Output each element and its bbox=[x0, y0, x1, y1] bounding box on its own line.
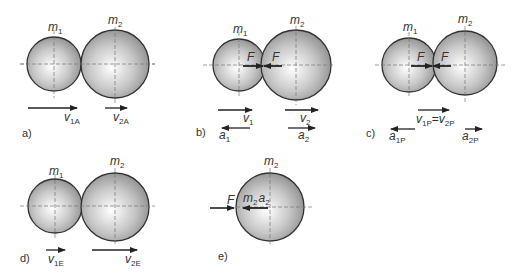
panel-label-c: c) bbox=[366, 127, 375, 139]
collision-diagram: m1 m2 v1A v2A a) m1 m2 F F v1 v2 a1 a2 b… bbox=[0, 0, 515, 278]
mass-label-m2: m2 bbox=[290, 13, 305, 29]
panel-b: m1 m2 F F v1 v2 a1 a2 b) bbox=[196, 13, 335, 144]
force-label-2: F bbox=[272, 50, 280, 64]
mass-label-m1: m1 bbox=[403, 20, 418, 36]
force-label: F bbox=[227, 193, 235, 207]
mass-label-m2: m2 bbox=[264, 154, 279, 170]
acceleration-label-a1p: a1P bbox=[389, 129, 405, 145]
velocity-label-v1e: v1E bbox=[48, 252, 64, 268]
mass-label-m1: m1 bbox=[233, 22, 248, 38]
acceleration-label-a1: a1 bbox=[219, 128, 231, 144]
panel-label-e: e) bbox=[218, 250, 228, 262]
panel-label-b: b) bbox=[196, 126, 206, 138]
mass-label-m1: m1 bbox=[48, 20, 63, 36]
velocity-label-v1a: v1A bbox=[64, 110, 80, 126]
velocity-label-v2a: v2A bbox=[113, 110, 129, 126]
acceleration-label-a2: a2 bbox=[298, 128, 310, 144]
mass-label-m1: m1 bbox=[49, 164, 64, 180]
panel-c: m1 m2 F F v1P=v2P a1P a2P c) bbox=[366, 12, 505, 145]
panel-label-d: d) bbox=[20, 252, 30, 264]
panel-d: m1 m2 v1E v2E d) bbox=[20, 154, 155, 268]
panel-label-a: a) bbox=[22, 127, 32, 139]
mass-label-m2: m2 bbox=[110, 154, 125, 170]
panel-a: m1 m2 v1A v2A a) bbox=[20, 13, 155, 139]
common-velocity-label: v1P=v2P bbox=[416, 112, 455, 128]
force-label-2: F bbox=[441, 50, 449, 64]
velocity-label-v2e: v2E bbox=[125, 252, 141, 268]
velocity-label-v1: v1 bbox=[243, 111, 254, 127]
velocity-label-v2: v2 bbox=[300, 111, 311, 127]
force-label-1: F bbox=[417, 50, 425, 64]
force-label-1: F bbox=[247, 50, 255, 64]
acceleration-label-a2p: a2P bbox=[462, 129, 478, 145]
panel-e: m2 F m2a2 e) bbox=[210, 154, 314, 262]
mass-label-m2: m2 bbox=[458, 12, 473, 28]
mass-label-m2: m2 bbox=[108, 13, 123, 29]
